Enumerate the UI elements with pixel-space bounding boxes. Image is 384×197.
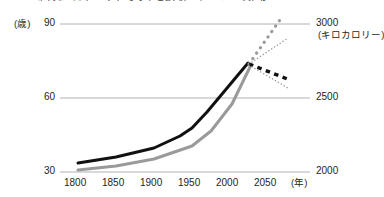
right-tick-2500: 2500	[316, 92, 338, 102]
left-tick-30: 30	[44, 166, 55, 176]
left-axis-unit-label: (歳)	[14, 19, 30, 29]
projection-gray-dotted-low	[249, 65, 288, 88]
x-tick-1900: 1900	[140, 178, 162, 188]
right-tick-2000: 2000	[316, 166, 338, 176]
x-tick-1950: 1950	[178, 178, 200, 188]
x-tick-1800: 1800	[64, 178, 86, 188]
left-tick-90: 90	[44, 18, 55, 28]
projection-gray-dotted-mid	[249, 38, 288, 64]
series-energy-intake-line	[78, 67, 250, 170]
x-tick-2000: 2000	[216, 178, 238, 188]
left-tick-60: 60	[44, 92, 55, 102]
right-axis-unit-label: (キロカロリー)	[318, 30, 384, 40]
right-tick-3000: 3000	[316, 18, 338, 28]
series-life-expectancy-line	[78, 63, 248, 163]
x-tick-1850: 1850	[102, 178, 124, 188]
x-axis-unit-label: (年)	[291, 178, 307, 188]
x-tick-2050: 2050	[254, 178, 276, 188]
